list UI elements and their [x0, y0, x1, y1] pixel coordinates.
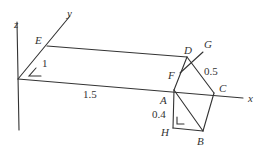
right-angle-mark-H	[177, 117, 184, 124]
point-A-label: A	[159, 94, 167, 106]
point-C-label: C	[219, 82, 227, 94]
z-axis-label: z	[13, 18, 19, 30]
measure-OA: 1.5	[83, 88, 97, 100]
edge-BC	[203, 93, 214, 131]
edge-AH	[173, 90, 174, 128]
y-axis-label: y	[66, 7, 72, 19]
x-axis	[18, 79, 243, 98]
z-axis	[17, 22, 19, 130]
measure-OE: 1	[42, 57, 48, 69]
point-H-label: H	[160, 126, 170, 138]
point-D-label: D	[183, 44, 192, 56]
measure-AH: 0.4	[152, 108, 166, 120]
point-E-label: E	[34, 34, 42, 46]
right-angle-mark-origin	[29, 68, 41, 76]
point-G-label: G	[204, 38, 212, 50]
measure-DC: 0.5	[204, 65, 218, 77]
edge-DA	[174, 57, 187, 90]
edge-HB	[173, 128, 203, 131]
edge-ED	[47, 46, 187, 57]
point-B-label: B	[197, 135, 204, 147]
geometry-diagram: z y x E D G F A C H B 1 1.5 0.5 0.4	[0, 0, 268, 149]
point-F-label: F	[167, 69, 175, 81]
edge-AB	[174, 90, 203, 131]
x-axis-label: x	[247, 92, 253, 104]
